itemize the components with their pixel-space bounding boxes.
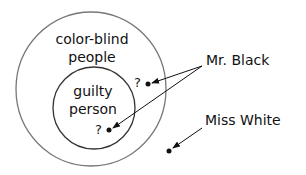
arrow-mr-black-outer (152, 66, 202, 83)
outer-label-line2: people (42, 48, 142, 66)
outer-set-label: color-blind people (42, 30, 142, 66)
inner-set-label: guilty person (60, 82, 126, 118)
question-mark-outer: ? (134, 75, 141, 90)
question-mark-inner: ? (95, 122, 102, 137)
arrow-miss-white (173, 128, 202, 148)
arrow-mr-black-inner (113, 66, 202, 128)
venn-diagram: color-blind people guilty person ? ? Mr.… (0, 0, 306, 175)
miss-white-label: Miss White (205, 112, 281, 128)
inner-label-line2: person (60, 100, 126, 118)
inner-label-line1: guilty (60, 82, 126, 100)
diagram-graphics (0, 0, 306, 175)
mr-black-dot-inner (107, 128, 112, 133)
mr-black-dot-outer (146, 82, 151, 87)
miss-white-dot (167, 149, 172, 154)
outer-label-line1: color-blind (42, 30, 142, 48)
mr-black-label: Mr. Black (206, 52, 269, 68)
